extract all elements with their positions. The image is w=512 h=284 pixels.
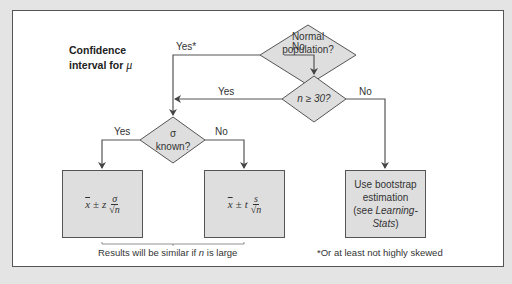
t-interval-box: x ± t s√n xyxy=(204,170,285,238)
edge-label-normal-yes: Yes* xyxy=(176,41,196,52)
bootstrap-box: Use bootstrap estimation (see Learning- … xyxy=(345,170,426,238)
similar-results-note: Results will be similar if n is large xyxy=(98,247,237,258)
edge-label-normal-no: No xyxy=(292,41,305,52)
z-interval-box: x ± z σ√n xyxy=(62,170,143,238)
footnote: *Or at least not highly skewed xyxy=(317,247,443,258)
edge-label-sigma-yes: Yes xyxy=(114,126,130,137)
edge-label-sigma-no: No xyxy=(215,126,228,137)
node-n-ge-30: n ≥ 30? xyxy=(284,92,344,105)
chart-title: Confidence interval for μ xyxy=(69,43,132,73)
node-normal-population: Normal population? xyxy=(268,30,348,56)
edge-label-n30-no: No xyxy=(359,86,372,97)
edge-label-n30-yes: Yes xyxy=(218,86,234,97)
node-sigma-known: σ known? xyxy=(142,127,204,153)
similar-results-bracket xyxy=(102,242,244,244)
